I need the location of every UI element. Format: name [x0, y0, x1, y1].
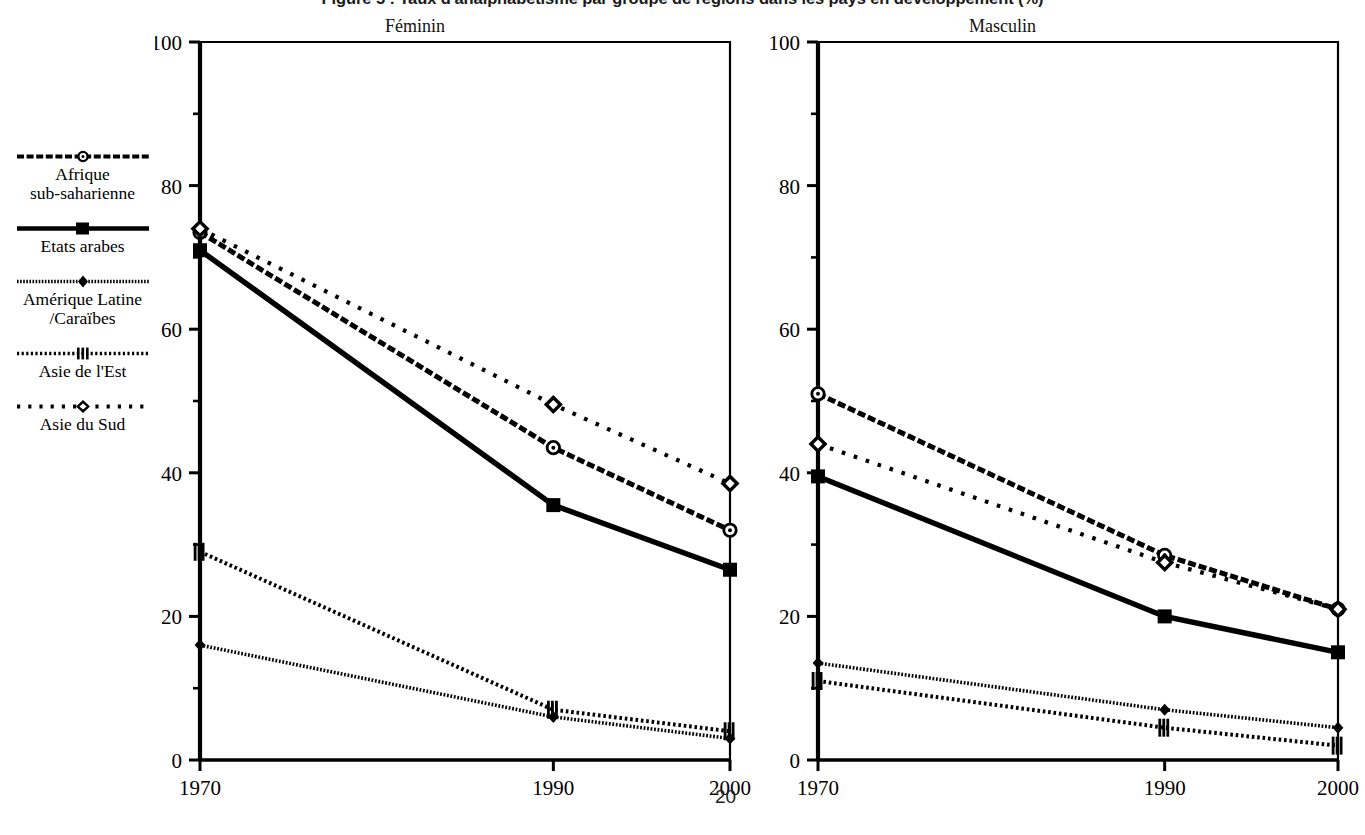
legend-line-etats-arabes-icon [15, 222, 151, 235]
svg-text:100: 100 [769, 31, 801, 55]
svg-text:60: 60 [779, 318, 800, 342]
plot-feminin: 020406080100197019902000 [155, 0, 755, 835]
plot-masculin: 020406080100197019902000 [760, 0, 1365, 835]
legend-label: Amérique Latine /Caraïbes [0, 290, 165, 328]
legend-label: Asie de l'Est [0, 362, 165, 381]
svg-text:1970: 1970 [797, 776, 839, 800]
svg-text:20: 20 [779, 605, 800, 629]
svg-text:1990: 1990 [532, 776, 574, 800]
svg-text:0: 0 [172, 749, 183, 773]
legend-line-amerique-latine-icon [15, 275, 151, 288]
legend-item-asie-du-sud: Asie du Sud [0, 400, 165, 434]
svg-text:2000: 2000 [1317, 776, 1359, 800]
legend-label: Etats arabes [0, 237, 165, 256]
legend: Afrique sub-saharienne Etats arabes Amér… [0, 150, 165, 453]
svg-text:100: 100 [155, 31, 182, 55]
panel-masculin: Masculin 020406080100197019902000 [760, 0, 1365, 835]
legend-item-amerique-latine: Amérique Latine /Caraïbes [0, 275, 165, 328]
legend-item-asie-de-lest: Asie de l'Est [0, 347, 165, 381]
legend-line-asie-est-icon [15, 347, 151, 360]
legend-label: Afrique sub-saharienne [0, 165, 165, 203]
legend-item-etats-arabes: Etats arabes [0, 222, 165, 256]
svg-text:1970: 1970 [179, 776, 221, 800]
svg-text:80: 80 [161, 175, 182, 199]
svg-text:0: 0 [790, 749, 801, 773]
svg-text:20: 20 [161, 605, 182, 629]
legend-label: Asie du Sud [0, 415, 165, 434]
legend-item-afrique-sub-saharienne: Afrique sub-saharienne [0, 150, 165, 203]
page-number: 20 [715, 786, 736, 808]
legend-line-afrique-icon [15, 150, 151, 163]
svg-text:40: 40 [779, 462, 800, 486]
svg-text:80: 80 [779, 175, 800, 199]
panel-feminin: Féminin 020406080100197019902000 [155, 0, 755, 835]
legend-line-asie-sud-icon [15, 400, 151, 413]
svg-text:1990: 1990 [1144, 776, 1186, 800]
svg-text:60: 60 [161, 318, 182, 342]
svg-text:40: 40 [161, 462, 182, 486]
